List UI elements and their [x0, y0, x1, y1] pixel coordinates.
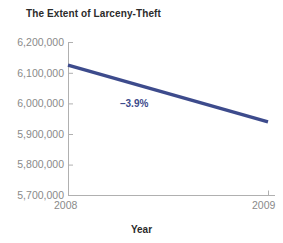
y-tick-label: 5,900,000	[2, 129, 64, 140]
x-axis-label: Year	[0, 224, 283, 235]
chart-figure: The Extent of Larceny-Theft 6,200,000 6,…	[0, 0, 283, 243]
percent-change-annotation: –3.9%	[120, 98, 148, 109]
y-tick-label: 6,100,000	[2, 68, 64, 79]
y-tick-label: 5,800,000	[2, 159, 64, 170]
y-tick-label: 6,200,000	[2, 37, 64, 48]
plot-svg	[68, 42, 275, 196]
y-tick-label: 6,000,000	[2, 98, 64, 109]
data-series-line	[68, 65, 268, 122]
x-tick-label-2008: 2008	[54, 200, 77, 211]
plot-area	[68, 42, 275, 196]
x-tick-label-2009: 2009	[252, 200, 275, 211]
